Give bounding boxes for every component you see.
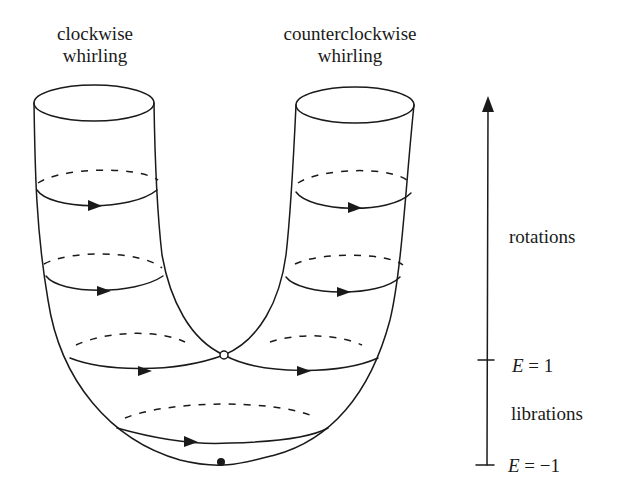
separatrix-left xyxy=(70,355,224,369)
arrow-left-3 xyxy=(138,366,152,376)
right-label-line2: whirling xyxy=(318,45,383,66)
saddle-point xyxy=(220,351,228,359)
ring-right-3-back xyxy=(270,336,362,345)
ring-left-1-back xyxy=(38,170,158,183)
left-label-line1: clockwise xyxy=(57,23,133,44)
minimum-point xyxy=(217,458,225,466)
label-e-equals-minus-1: E = −1 xyxy=(507,455,560,476)
ring-left-2-front xyxy=(46,276,163,290)
ring-left-2-back xyxy=(44,254,162,268)
right-label-line1: counterclockwise xyxy=(284,23,417,44)
outer-wall xyxy=(34,103,414,465)
left-label-line2: whirling xyxy=(63,45,128,66)
arrow-right-3 xyxy=(297,366,311,376)
ring-left-1-front xyxy=(37,190,157,206)
left-top-ellipse xyxy=(34,85,154,121)
ring-level-1 xyxy=(37,170,411,213)
energy-axis xyxy=(476,96,494,465)
ring-right-1-back xyxy=(298,171,410,183)
ring-left-3-back xyxy=(76,333,185,345)
surface-outline xyxy=(34,85,414,465)
inner-wall xyxy=(154,103,296,355)
ring-level-4-libration xyxy=(117,404,328,447)
label-rotations: rotations xyxy=(509,226,576,247)
label-librations: librations xyxy=(511,403,583,424)
ring-level-2 xyxy=(44,254,403,297)
arrow-left-2 xyxy=(97,286,111,296)
right-top-ellipse xyxy=(296,87,414,123)
arrow-libration xyxy=(184,436,198,447)
energy-axis-arrow-icon xyxy=(482,96,494,112)
ring-right-2-back xyxy=(295,255,403,265)
energy-surface-diagram: clockwise whirling counterclockwise whir… xyxy=(0,0,625,499)
label-e-equals-1: E = 1 xyxy=(511,355,553,376)
energy-axis-line xyxy=(487,108,488,465)
arrow-right-1 xyxy=(348,202,362,213)
ring-libration-front xyxy=(117,428,328,443)
ring-libration-back xyxy=(125,404,310,418)
arrow-left-1 xyxy=(88,200,102,211)
arrow-right-2 xyxy=(337,287,351,297)
